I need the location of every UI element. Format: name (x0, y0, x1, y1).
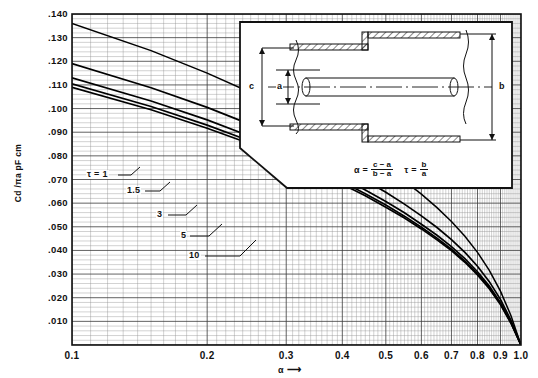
x-axis-tick-labels: 0.10.20.30.40.50.60.70.80.91.0 (0, 351, 538, 367)
formula-alpha-denominator: b − a (371, 170, 393, 178)
y-tick-label: .070 (22, 175, 68, 185)
y-tick-label: .010 (22, 317, 68, 327)
y-tick-label: .090 (22, 127, 68, 137)
curve-label-tau-5: 5 (180, 231, 187, 240)
x-tick-label: 0.2 (200, 351, 215, 361)
x-axis-arrow-icon: ⟶ (284, 364, 302, 375)
formula-alpha-symbol: α (354, 165, 360, 175)
formula-tau-equals: = (411, 165, 416, 175)
y-tick-label: .050 (22, 222, 68, 232)
y-tick-label: .120 (22, 57, 68, 67)
formula-alpha-equals: = (363, 165, 368, 175)
chart-figure: .010.020.030.040.050.060.070.080.090.100… (0, 0, 538, 378)
curve-label-tau-10: 10 (188, 251, 201, 260)
x-tick-label: 0.5 (378, 351, 393, 361)
inset-dimension-label-c: c (248, 82, 255, 91)
x-tick-label: 0.7 (444, 351, 459, 361)
y-tick-label: .030 (22, 269, 68, 279)
inset-dimension-label-a: a (276, 82, 283, 91)
formula-alpha-fraction: c − a b − a (371, 161, 393, 179)
formula-tau-fraction: b a (420, 161, 429, 179)
curve-label-tau-3: 3 (156, 210, 163, 219)
x-tick-label: 0.9 (493, 351, 508, 361)
y-tick-label: .130 (22, 33, 68, 43)
y-axis-title: Cd /πa pF cm (13, 113, 23, 233)
y-tick-label: .080 (22, 151, 68, 161)
inset-dimension-label-b: b (498, 82, 506, 91)
y-tick-label: .020 (22, 293, 68, 303)
inset-formula: α = c − a b − a τ = b a (352, 160, 430, 180)
curve-label-tau-1p5: 1.5 (126, 186, 141, 195)
x-axis-title: α⟶ (278, 364, 302, 375)
x-tick-label: 0.4 (335, 351, 350, 361)
x-tick-label: 1.0 (514, 351, 529, 361)
x-tick-label: 0.8 (470, 351, 485, 361)
y-tick-label: .060 (22, 198, 68, 208)
plot-area (0, 0, 538, 378)
x-tick-label: 0.1 (65, 351, 80, 361)
formula-tau-denominator: a (420, 170, 428, 178)
y-tick-label: .040 (22, 246, 68, 256)
curve-label-tau-1: τ = 1 (86, 170, 109, 179)
formula-tau-symbol: τ (404, 165, 408, 175)
x-tick-label: 0.6 (414, 351, 429, 361)
y-tick-label: .140 (22, 9, 68, 19)
y-tick-label: .100 (22, 104, 68, 114)
y-tick-label: .110 (22, 80, 68, 90)
x-tick-label: 0.3 (279, 351, 294, 361)
